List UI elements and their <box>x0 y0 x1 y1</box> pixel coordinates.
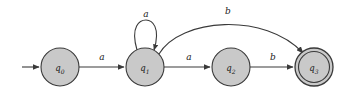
diagram-canvas: a a a b b q0 <box>0 0 351 98</box>
transition-q1-q1-self-loop: a <box>135 9 157 50</box>
state-q1[interactable]: q1 <box>126 48 164 86</box>
state-q2[interactable]: q2 <box>212 48 250 86</box>
transition-q2-q3: b <box>250 52 293 67</box>
dfa-state-diagram: a a a b b q0 <box>0 0 351 98</box>
transition-q0-q1: a <box>79 52 124 67</box>
transition-label-q1-q2: a <box>186 52 191 62</box>
state-q3-accepting[interactable]: q3 <box>295 48 333 86</box>
transition-q1-q3-arc: b <box>159 6 303 54</box>
transition-q1-q2: a <box>164 52 210 67</box>
transition-label-q1-q1: a <box>143 9 148 19</box>
transition-label-q2-q3: b <box>270 52 276 62</box>
transition-label-q0-q1: a <box>99 52 104 62</box>
state-q0[interactable]: q0 <box>41 48 79 86</box>
transition-label-q1-q3: b <box>225 6 231 16</box>
